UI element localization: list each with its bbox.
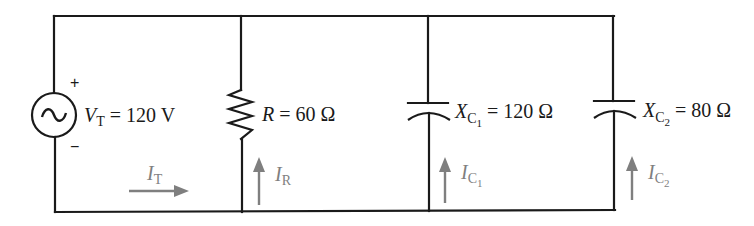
current-total: IT xyxy=(129,162,189,197)
current-cap1: IC1 xyxy=(439,157,483,203)
current-cap1-label: IC1 xyxy=(460,161,483,189)
arrow-head-up-icon xyxy=(253,157,265,172)
current-resistor-label: IR xyxy=(274,163,292,188)
sine-wave-icon xyxy=(42,109,66,121)
arrow-head-right-icon xyxy=(174,185,189,197)
resistor: R = 60 Ω xyxy=(229,90,335,139)
resistor-zigzag-icon xyxy=(229,90,252,139)
current-resistor: IR xyxy=(253,157,292,205)
circuit-diagram: + − VT = 120 V R = 60 Ω XC1 = 120 Ω XC2 … xyxy=(0,0,754,226)
source-label: VT = 120 V xyxy=(84,104,176,129)
bottom-rail-wire xyxy=(55,210,615,212)
cap1-label: XC1 = 120 Ω xyxy=(454,100,553,129)
current-cap2: IC2 xyxy=(626,156,670,200)
minus-sign: − xyxy=(70,138,79,155)
resistor-label: R = 60 Ω xyxy=(261,103,335,125)
arrow-head-up-icon xyxy=(439,157,451,172)
arrow-head-up-icon xyxy=(626,156,638,171)
plus-sign: + xyxy=(70,74,79,91)
current-total-label: IT xyxy=(146,162,163,187)
current-cap2-label: IC2 xyxy=(647,161,670,189)
cap2-label: XC2 = 80 Ω xyxy=(642,99,731,128)
